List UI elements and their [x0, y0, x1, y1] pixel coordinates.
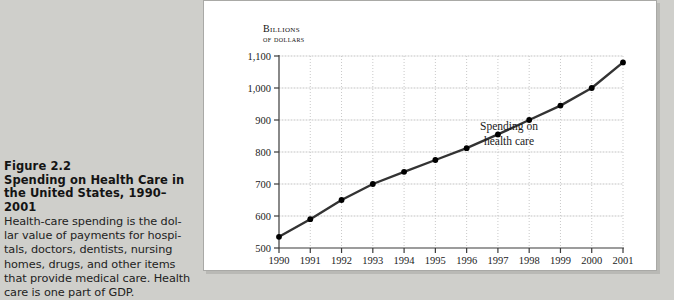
x-tick-label: 1996: [456, 255, 477, 266]
x-tick-label: 1998: [519, 255, 540, 266]
data-point-2000: [589, 85, 595, 91]
x-tick-label: 1997: [487, 255, 508, 266]
data-point-1999: [558, 103, 564, 109]
data-point-1996: [464, 145, 470, 151]
x-tick-label: 1992: [331, 255, 352, 266]
figure-body-line1: Health-care spending is the dol-: [4, 215, 194, 229]
x-tick-label: 2001: [613, 255, 634, 266]
x-tick-label: 1999: [550, 255, 571, 266]
horizontal-gridlines: [279, 56, 623, 216]
y-tick-label: 800: [255, 147, 271, 158]
figure-body-line3: tals, doctors, dentists, nursing: [4, 243, 194, 257]
y-tick-label: 500: [255, 243, 271, 254]
y-tick-label: 700: [255, 179, 271, 190]
figure-body-line5: that provide medical care. Health: [4, 272, 194, 286]
figure-caption-column: Figure 2.2 Spending on Health Care in th…: [0, 0, 196, 274]
figure-body-line6: care is one part of GDP.: [4, 286, 194, 300]
data-point-1995: [432, 157, 438, 163]
y-tick-label: 600: [255, 211, 271, 222]
figure-title-line2: the United States, 1990–2001: [4, 187, 194, 214]
series-markers: [276, 60, 626, 240]
figure-title-line1: Spending on Health Care in: [4, 174, 194, 188]
y-axis-ticks: [274, 56, 279, 248]
data-point-1993: [370, 181, 376, 187]
x-tick-label: 1994: [394, 255, 416, 266]
y-axis-tick-labels: 5006007008009001,0001,100: [247, 51, 271, 254]
data-point-1991: [307, 216, 313, 222]
x-axis-tick-labels: 1990199119921993199419951996199719981999…: [269, 255, 634, 266]
chart-plot-area: Billions of dollars 5006007008009001,000…: [204, 1, 658, 272]
data-point-1992: [339, 197, 345, 203]
y-tick-label: 1,000: [247, 83, 271, 94]
x-tick-label: 1991: [300, 255, 321, 266]
data-point-1994: [401, 169, 407, 175]
chart-panel: Billions of dollars 5006007008009001,000…: [203, 0, 657, 271]
x-tick-label: 1995: [425, 255, 446, 266]
data-point-2001: [620, 60, 626, 66]
x-tick-label: 2000: [581, 255, 602, 266]
figure-caption: Figure 2.2 Spending on Health Care in th…: [4, 160, 194, 300]
y-tick-label: 1,100: [247, 51, 271, 62]
x-tick-label: 1993: [362, 255, 383, 266]
x-axis-ticks: [279, 248, 623, 253]
chart-annotation-line1: Spending on: [480, 120, 538, 133]
figure-body-line2: lar value of payments for hospi-: [4, 229, 194, 243]
x-tick-label: 1990: [269, 255, 290, 266]
y-tick-label: 900: [255, 115, 271, 126]
line-chart-svg: 5006007008009001,0001,100 19901991199219…: [204, 1, 658, 272]
chart-annotation-line2: health care: [484, 135, 534, 147]
figure-body-line4: homes, drugs, and other items: [4, 258, 194, 272]
series-line-health-care: [279, 62, 623, 236]
figure-number: Figure 2.2: [4, 160, 194, 174]
data-point-1990: [276, 234, 282, 240]
